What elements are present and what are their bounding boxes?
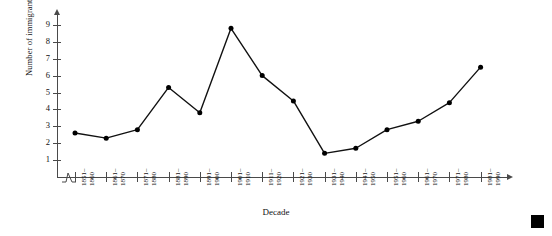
data-point[interactable] bbox=[104, 136, 109, 141]
data-point[interactable] bbox=[229, 26, 234, 31]
data-point[interactable] bbox=[197, 110, 202, 115]
data-point[interactable] bbox=[73, 131, 78, 136]
data-point[interactable] bbox=[166, 85, 171, 90]
corner-square-marker bbox=[531, 215, 544, 228]
data-point[interactable] bbox=[478, 65, 483, 70]
data-point[interactable] bbox=[135, 127, 140, 132]
immigration-line-chart: Number of immigrants (in thousands) 1234… bbox=[0, 0, 552, 236]
data-point[interactable] bbox=[260, 73, 265, 78]
data-point[interactable] bbox=[322, 151, 327, 156]
x-axis-title: Decade bbox=[0, 207, 552, 217]
data-series-line bbox=[0, 0, 552, 236]
data-point[interactable] bbox=[353, 146, 358, 151]
data-point[interactable] bbox=[385, 127, 390, 132]
data-point[interactable] bbox=[416, 119, 421, 124]
data-point[interactable] bbox=[447, 100, 452, 105]
data-point[interactable] bbox=[291, 98, 296, 103]
